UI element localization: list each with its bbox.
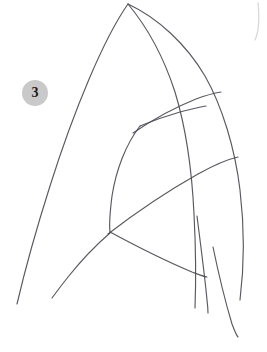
figure-page: 3	[0, 0, 267, 352]
drawing-background	[0, 0, 267, 352]
sketch-drawing	[0, 0, 267, 352]
figure-number-label: 3	[32, 86, 39, 100]
figure-number-badge: 3	[22, 80, 48, 106]
